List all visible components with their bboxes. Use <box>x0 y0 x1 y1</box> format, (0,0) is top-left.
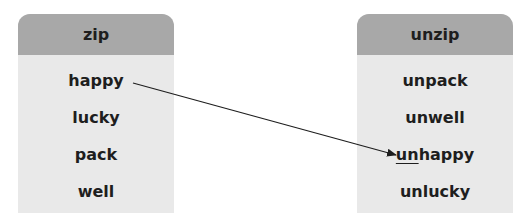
connection-arrow <box>0 0 531 222</box>
